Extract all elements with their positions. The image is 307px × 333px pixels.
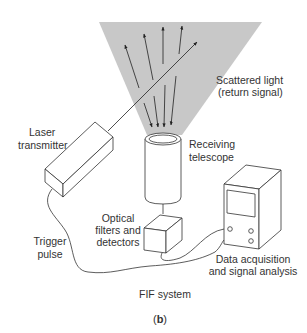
figure-caption: (b) <box>150 313 170 325</box>
label-return-signal: (return signal) <box>218 86 283 98</box>
label-data-acquisition: Data acquisition <box>208 253 298 265</box>
data-acquisition-unit <box>224 165 281 249</box>
receiving-telescope <box>145 133 181 204</box>
caption-close-paren: ) <box>163 313 167 325</box>
label-filters-and: filters and <box>92 224 144 236</box>
label-scattered-light: Scattered light <box>216 74 283 86</box>
label-pulse: pulse <box>30 248 70 260</box>
label-receiving: Receiving <box>189 138 235 150</box>
fif-system-diagram <box>0 0 307 333</box>
label-telescope: telescope <box>189 151 234 163</box>
laser-transmitter <box>45 122 113 197</box>
label-laser: Laser <box>29 126 53 138</box>
label-transmitter: transmitter <box>18 139 68 151</box>
label-fif-system: FIF system <box>135 288 195 300</box>
optical-detector-cube <box>144 215 182 253</box>
label-trigger: Trigger <box>30 235 70 247</box>
label-signal-analysis: and signal analysis <box>208 265 298 277</box>
label-detectors: detectors <box>92 236 144 248</box>
label-optical: Optical <box>92 212 144 224</box>
